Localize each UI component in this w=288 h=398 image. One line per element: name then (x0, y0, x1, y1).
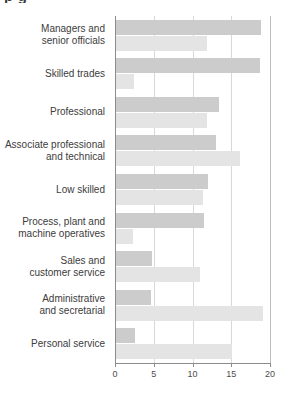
category-label: Skilled trades (0, 68, 110, 80)
bar-group (116, 213, 270, 244)
bar-group (116, 174, 270, 205)
x-tick-label: 10 (187, 369, 197, 379)
bar (116, 213, 204, 228)
x-tick-mark (115, 363, 116, 367)
bar (116, 251, 152, 266)
bar-group (116, 251, 270, 282)
gridline (270, 16, 271, 363)
x-tick-mark (270, 363, 271, 367)
category-label: Personal service (0, 338, 110, 350)
bar (116, 344, 232, 359)
x-tick-label: 0 (112, 369, 117, 379)
bar (116, 306, 263, 321)
bar (116, 151, 240, 166)
x-tick-mark (231, 363, 232, 367)
category-label: Sales and customer service (0, 255, 110, 279)
category-label: Professional (0, 106, 110, 118)
bar (116, 190, 203, 205)
bar-rows (115, 16, 270, 363)
bar-group (116, 290, 270, 321)
bar (116, 74, 134, 89)
category-label: Managers and senior officials (0, 23, 110, 47)
category-label: Process, plant and machine operatives (0, 216, 110, 240)
bar (116, 267, 200, 282)
bar (116, 97, 219, 112)
x-tick-mark (193, 363, 194, 367)
bar (116, 174, 208, 189)
bar-group (116, 20, 270, 51)
bar-group (116, 58, 270, 89)
x-tick-mark (154, 363, 155, 367)
bar (116, 36, 207, 51)
bar (116, 135, 216, 150)
bar (116, 20, 261, 35)
bar (116, 328, 135, 343)
bar (116, 113, 207, 128)
bar-chart: p g Managers and senior officialsSkilled… (0, 0, 288, 398)
x-tick-label: 20 (265, 369, 275, 379)
category-label: Administrative and secretarial (0, 293, 110, 317)
bar-group (116, 97, 270, 128)
bar (116, 290, 151, 305)
x-tick-label: 15 (226, 369, 236, 379)
x-tick-label: 5 (151, 369, 156, 379)
bar-group (116, 135, 270, 166)
category-label: Associate professional and technical (0, 139, 110, 163)
plot-area: 05101520 (115, 16, 270, 363)
bar (116, 58, 260, 73)
category-axis-labels: Managers and senior officialsSkilled tra… (0, 16, 110, 363)
clipped-title-fragment: p g (0, 0, 288, 3)
category-label: Low skilled (0, 184, 110, 196)
bar-group (116, 328, 270, 359)
bar (116, 229, 133, 244)
